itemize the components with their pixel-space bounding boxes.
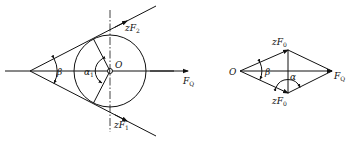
upper-force-vector — [240, 50, 288, 71]
diagram-canvas: β α1 O zF2 zF1 FQ O β α zF0 zF0 FQ — [0, 0, 350, 143]
lower-force-label-right: zF0 — [271, 96, 287, 107]
rhombus-upper-right-edge — [288, 50, 332, 71]
upper-tangent-line — [30, 6, 156, 71]
origin-o-label: O — [229, 67, 237, 77]
right-diagram: O β α zF0 zF0 FQ — [229, 37, 345, 107]
beta-label: β — [56, 67, 62, 77]
diagram-svg: β α1 O zF2 zF1 FQ O β α zF0 zF0 FQ — [0, 0, 350, 143]
left-diagram: β α1 O zF2 zF1 FQ — [5, 6, 194, 136]
upper-force-label: zF2 — [124, 23, 140, 34]
beta-label-right: β — [264, 67, 270, 77]
lower-force-label: zF1 — [113, 120, 129, 131]
resultant-label-right: FQ — [333, 71, 345, 82]
alpha1-label: α1 — [84, 67, 94, 78]
alpha-label: α — [290, 72, 296, 82]
center-o-label: O — [115, 60, 123, 70]
lower-tangent-line — [30, 71, 156, 136]
upper-force-label-right: zF0 — [271, 37, 287, 48]
resultant-label: FQ — [182, 76, 194, 87]
